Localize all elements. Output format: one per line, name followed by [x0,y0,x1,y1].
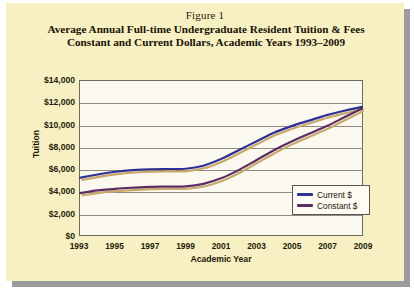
legend-swatch-current-icon [297,193,313,196]
y-axis-tick-label: $8,000 [13,142,75,152]
x-axis-title: Academic Year [79,254,363,264]
figure-page: Figure 1 Average Annual Full-time Underg… [0,0,414,291]
legend-item-constant[interactable]: Constant $ [297,200,365,211]
series-line-current- [80,107,362,178]
y-axis-tick-label: $0 [13,231,75,241]
y-axis-tick-label: $14,000 [13,75,75,85]
series-shadow-current- [82,109,364,180]
figure-title-line-2: Constant and Current Dollars, Academic Y… [20,36,392,49]
legend-swatch-constant-icon [297,204,313,207]
y-axis-tick-label: $4,000 [13,186,75,196]
y-axis-tick-label: $6,000 [13,164,75,174]
figure-label: Figure 1 [6,9,404,21]
x-axis-tick-label: 2005 [275,241,309,251]
y-axis-tick-label: $10,000 [13,120,75,130]
chart: Tuition $0$2,000$4,000$6,000$8,000$10,00… [12,67,398,277]
legend-label-current: Current $ [317,190,352,200]
x-axis-tick-label: 2001 [204,241,238,251]
figure-title-line-1: Average Annual Full-time Undergraduate R… [20,23,392,36]
series-shadow-constant- [82,111,364,196]
x-axis-tick-label: 1995 [98,241,132,251]
y-axis-tick-label: $2,000 [13,209,75,219]
x-axis-tick-label: 2007 [311,241,345,251]
page-surface: Figure 1 Average Annual Full-time Underg… [6,3,404,281]
y-axis-tick-label: $12,000 [13,97,75,107]
x-axis-tick-label: 1993 [62,241,96,251]
legend-label-constant: Constant $ [317,201,358,211]
legend-item-current[interactable]: Current $ [297,189,365,200]
x-axis-tick-label: 1997 [133,241,167,251]
x-axis-tick-label: 2003 [240,241,274,251]
chart-legend: Current $ Constant $ [292,185,370,215]
figure-title: Average Annual Full-time Undergraduate R… [20,23,392,49]
x-axis-tick-label: 1999 [169,241,203,251]
plot-area: Current $ Constant $ [79,80,363,236]
x-axis-tick-label: 2009 [346,241,380,251]
